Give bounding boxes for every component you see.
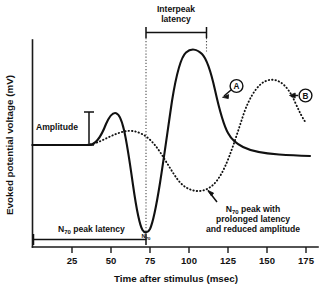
callout-b-letter: B xyxy=(303,92,309,101)
interpeak-latency-label-line2: latency xyxy=(161,14,191,24)
n70-marker-subscript: 70 xyxy=(146,236,151,241)
x-axis-label: Time after stimulus (msec) xyxy=(114,273,238,284)
n70-peak-latency-measurement: N70 peak latency xyxy=(34,224,147,245)
y-axis-group: Evoked potential voltage (mV) xyxy=(4,40,33,247)
delayed-n70-text-line2: prolonged latency xyxy=(216,214,290,224)
x-tick-label-50: 50 xyxy=(106,255,117,266)
x-tick-label-175: 175 xyxy=(298,255,315,266)
callout-a-group: A xyxy=(223,80,243,99)
callout-b-group: B xyxy=(290,89,312,102)
n70-peak-latency-label: N70 peak latency xyxy=(58,224,125,235)
delayed-n70-text-line3: and reduced amplitude xyxy=(206,224,300,234)
x-tick-label-25: 25 xyxy=(67,255,78,266)
x-tick-label-75: 75 xyxy=(145,255,156,266)
x-tick-label-100: 100 xyxy=(181,255,197,266)
curve-series-b xyxy=(33,80,307,191)
x-axis-tick-labels: 25 50 75 100 125 150 175 xyxy=(67,255,315,266)
x-tick-label-125: 125 xyxy=(220,255,237,266)
delayed-n70-arrowhead-icon xyxy=(208,191,214,197)
interpeak-latency-measurement: Interpeak latency xyxy=(146,4,207,38)
guide-lines-group xyxy=(146,38,207,234)
delayed-line1-suffix: peak with xyxy=(239,204,281,214)
amplitude-bracket xyxy=(84,112,94,145)
evoked-potential-figure-container: Evoked potential voltage (mV) 25 50 75 1… xyxy=(0,0,326,292)
x-axis-group: 25 50 75 100 125 150 175 Time after stim… xyxy=(33,247,319,284)
callout-a-letter: A xyxy=(234,82,240,91)
n70-latency-suffix: peak latency xyxy=(71,224,125,234)
interpeak-latency-bracket xyxy=(146,27,207,38)
amplitude-label: Amplitude xyxy=(36,122,78,132)
x-tick-label-150: 150 xyxy=(259,255,275,266)
interpeak-latency-label-line1: Interpeak xyxy=(157,4,195,14)
y-axis-label: Evoked potential voltage (mV) xyxy=(4,75,15,215)
delayed-n70-annotation: N70 peak with prolonged latency and redu… xyxy=(206,191,300,235)
n70-peak-latency-bracket xyxy=(34,234,147,245)
x-axis-ticks xyxy=(72,247,306,253)
amplitude-measurement: Amplitude xyxy=(36,112,94,145)
evoked-potential-chart: Evoked potential voltage (mV) 25 50 75 1… xyxy=(0,0,326,292)
